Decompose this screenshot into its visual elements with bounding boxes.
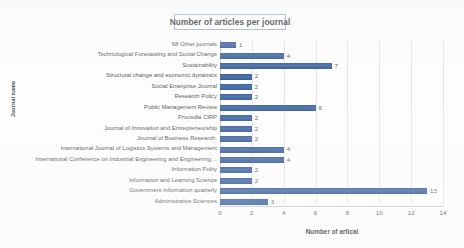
- bar[interactable]: [220, 126, 252, 132]
- y-tick-label: Administrative Sciences: [6, 199, 220, 205]
- x-tick-label: 0: [218, 209, 221, 216]
- bar[interactable]: [220, 147, 284, 153]
- bar[interactable]: [220, 94, 252, 100]
- bar-row: 2: [220, 83, 443, 91]
- bar-row: 2: [220, 166, 443, 174]
- bar-row: 3: [220, 198, 443, 206]
- bar-value-label: 7: [335, 63, 338, 69]
- bar-chart: Number of articles per journal Journal n…: [0, 0, 464, 248]
- bar-row: 4: [220, 156, 443, 164]
- bar-value-label: 2: [255, 126, 258, 132]
- bar[interactable]: [220, 167, 252, 173]
- y-tick-label: Information Polity: [6, 167, 220, 173]
- bar[interactable]: [220, 136, 252, 142]
- bar-value-label: 2: [255, 73, 258, 79]
- y-tick-label: Social Enterprise Journal: [6, 84, 220, 90]
- y-tick-label: 68 Other journals: [6, 42, 220, 48]
- bar-value-label: 2: [255, 167, 258, 173]
- bar-row: 2: [220, 135, 443, 143]
- bar-row: 2: [220, 114, 443, 122]
- x-tick-label: 10: [376, 209, 383, 216]
- bar-row: 6: [220, 104, 443, 112]
- x-tick-label: 2: [250, 209, 253, 216]
- plot-area: 14722262224422133: [220, 40, 443, 207]
- bar-row: 2: [220, 125, 443, 133]
- bar[interactable]: [220, 84, 252, 90]
- y-tick-label: Research Policy: [6, 94, 220, 100]
- bar-value-label: 4: [287, 146, 290, 152]
- bar-value-label: 2: [255, 94, 258, 100]
- x-tick-label: 12: [408, 209, 415, 216]
- x-tick-label: 8: [346, 209, 349, 216]
- y-tick-label: Government information quarterly: [6, 188, 220, 194]
- bar-value-label: 2: [255, 115, 258, 121]
- gridline: [443, 40, 444, 207]
- bar-value-label: 4: [287, 53, 290, 59]
- y-tick-label: Journal of Innovation and Entrepreneursh…: [6, 126, 220, 132]
- x-axis-title: Number of artical: [220, 228, 444, 235]
- x-tick-label: 6: [314, 209, 317, 216]
- bar-row: 1: [220, 41, 443, 49]
- bar-value-label: 2: [255, 84, 258, 90]
- bar[interactable]: [220, 42, 236, 48]
- bar[interactable]: [220, 115, 252, 121]
- bar[interactable]: [220, 74, 252, 80]
- bar-value-label: 1: [239, 42, 242, 48]
- bar-row: 2: [220, 93, 443, 101]
- y-tick-label: Journal of Business Research.: [6, 136, 220, 142]
- bar-row: 4: [220, 52, 443, 60]
- bar-row: 2: [220, 73, 443, 81]
- y-tick-label: Information and Learning Science: [6, 178, 220, 184]
- y-tick-label: Public Management Review: [6, 105, 220, 111]
- y-tick-label: International Journal of Logistics Syste…: [6, 146, 220, 152]
- bar-row: 4: [220, 146, 443, 154]
- bar-row: 13: [220, 187, 443, 195]
- x-axis-line: [220, 206, 443, 207]
- bar-row: 2: [220, 177, 443, 185]
- bar-value-label: 13: [430, 188, 437, 194]
- y-axis-tick-labels: 68 Other journalsTechnological Forecasti…: [0, 40, 220, 207]
- bar-value-label: 4: [287, 157, 290, 163]
- y-tick-label: Sustainability: [6, 63, 220, 69]
- y-tick-label: Structural change and economic dynamics: [6, 73, 220, 79]
- bar[interactable]: [220, 157, 284, 163]
- x-axis-tick-labels: 02468101214: [220, 209, 443, 221]
- chart-title: Number of articles per journal: [170, 17, 291, 27]
- y-tick-label: International Conference on Industrial E…: [6, 157, 220, 163]
- bar-row: 7: [220, 62, 443, 70]
- bar[interactable]: [220, 178, 252, 184]
- bar-value-label: 3: [271, 199, 274, 205]
- y-tick-label: Technological Forecasting and Social Cha…: [6, 52, 220, 58]
- y-tick-label: Procedia CIRP: [6, 115, 220, 121]
- bar-value-label: 2: [255, 136, 258, 142]
- bar[interactable]: [220, 105, 316, 111]
- bar[interactable]: [220, 188, 427, 194]
- chart-title-box: Number of articles per journal: [174, 14, 286, 30]
- bar-value-label: 6: [319, 105, 322, 111]
- bar[interactable]: [220, 199, 268, 205]
- bar[interactable]: [220, 53, 284, 59]
- bar-value-label: 2: [255, 178, 258, 184]
- x-tick-label: 14: [440, 209, 447, 216]
- bar[interactable]: [220, 63, 332, 69]
- x-tick-label: 4: [282, 209, 285, 216]
